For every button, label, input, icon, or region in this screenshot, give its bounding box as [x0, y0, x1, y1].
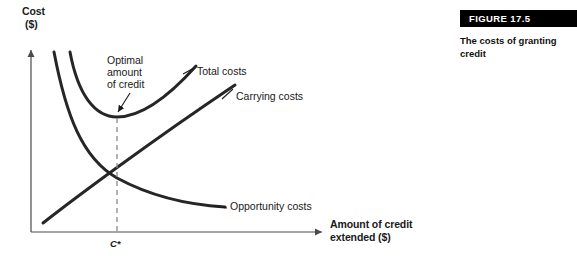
- y-axis-label-line1: Cost: [22, 6, 45, 18]
- x-axis-label-line1: Amount of credit: [330, 219, 412, 231]
- optimal-annotation-line1: Optimal: [107, 55, 143, 67]
- optimal-annotation-line2: amount: [107, 67, 142, 79]
- optimum-tick-label: C*: [110, 238, 121, 250]
- x-axis-label-line2: extended ($): [330, 232, 391, 244]
- opportunity-costs-label: Opportunity costs: [230, 201, 312, 213]
- y-axis-label-line2: ($): [25, 19, 38, 31]
- carrying-costs-curve: [43, 85, 235, 223]
- figure-container: Cost ($) Amount of credit extended ($) O…: [0, 0, 577, 256]
- figure-number-banner: FIGURE 17.5: [460, 10, 577, 27]
- figure-caption-block: FIGURE 17.5 The costs of granting credit: [460, 10, 577, 60]
- optimal-annotation-line3: of credit: [107, 79, 144, 91]
- total-costs-label: Total costs: [197, 66, 247, 78]
- optimal-annotation-arrow: [118, 93, 130, 112]
- carrying-costs-label: Carrying costs: [236, 91, 303, 103]
- figure-caption-text: The costs of granting credit: [460, 35, 572, 60]
